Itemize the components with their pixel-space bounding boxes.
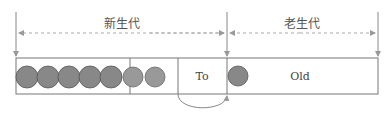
promotion-arrow (178, 94, 227, 108)
object-icon (58, 66, 80, 88)
object-icon (228, 66, 248, 86)
old-generation-label: 老生代 (284, 17, 320, 31)
to-space-label: To (195, 70, 208, 83)
object-icon (37, 66, 59, 88)
object-icon (16, 66, 38, 88)
object-icon (123, 67, 143, 87)
young-generation-label: 新生代 (104, 16, 140, 31)
heap-generation-diagram: 新生代 老生代 To Old (0, 0, 391, 114)
old-space-label: Old (290, 70, 310, 83)
object-icon (145, 67, 165, 87)
object-icon (100, 66, 122, 88)
eden-space (16, 66, 122, 88)
object-icon (79, 66, 101, 88)
